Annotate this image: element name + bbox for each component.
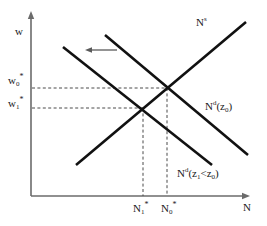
wage-low-tick-label: w1* [8, 98, 23, 109]
employment-low-tick-label: N1* [133, 203, 148, 214]
employment-high-tick-label: N0* [161, 203, 176, 214]
x-axis-arrowhead-icon [242, 193, 250, 199]
labour-demand-shifted-curve-label: Nd(z1<z0) [177, 168, 219, 179]
wage-high-tick-label: w0* [8, 75, 23, 86]
x-axis-label: N [243, 202, 251, 213]
labour-supply-curve-label: Ns [196, 17, 207, 28]
y-axis-arrowhead-icon [28, 11, 34, 19]
y-axis-label: w [15, 26, 23, 37]
labour-supply-curve [76, 22, 246, 165]
labour-market-diagram: w N w0* w1* N1* N0* Ns Nd(z0) Nd(z1<z0) [0, 0, 267, 226]
leftward-shift-arrowhead-icon [85, 47, 92, 53]
labour-demand-initial-curve-label: Nd(z0) [205, 101, 232, 112]
